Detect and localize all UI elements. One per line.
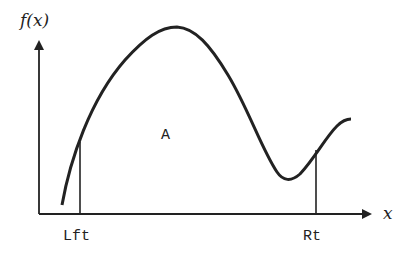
diagram-canvas (0, 0, 409, 257)
area-under-curve-diagram: f(x) x A Lft Rt (0, 0, 409, 257)
y-axis-label: f(x) (20, 10, 49, 30)
left-bound-label: Lft (63, 228, 90, 245)
region-label: A (161, 127, 170, 144)
function-curve (62, 27, 351, 205)
x-axis-label: x (383, 203, 393, 223)
right-bound-label: Rt (303, 228, 321, 245)
